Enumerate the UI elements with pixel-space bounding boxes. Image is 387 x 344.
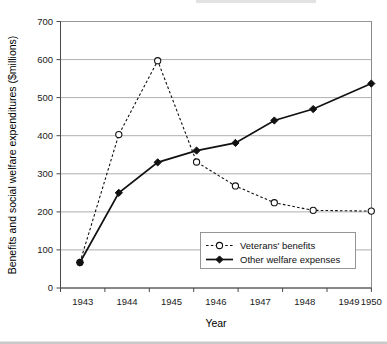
y-tick-label-400: 400 <box>37 130 53 141</box>
y-tick-label-200: 200 <box>37 206 53 217</box>
legend-marker-open-circle-icon <box>216 242 222 248</box>
y-tick-label-500: 500 <box>37 92 53 103</box>
data-point-veterans-1944 <box>116 131 122 137</box>
y-tick-label-0: 0 <box>48 282 53 293</box>
data-point-other-1947 <box>232 139 239 146</box>
x-tick-label-1946: 1946 <box>205 296 226 307</box>
legend-label-veterans-benefits: Veterans' benefits <box>240 240 315 251</box>
x-tick-label-1944: 1944 <box>117 296 138 307</box>
y-tick-labels: 700 600 500 400 300 200 100 0 <box>37 16 53 294</box>
scan-top-smudge <box>196 0 316 3</box>
x-tick-label-1950: 1950 <box>361 296 382 307</box>
data-point-veterans-1946 <box>193 159 199 165</box>
data-point-veterans-1948 <box>271 200 277 206</box>
data-point-other-1946 <box>193 147 200 154</box>
y-tick-label-300: 300 <box>37 168 53 179</box>
data-point-veterans-1950 <box>368 208 374 214</box>
data-point-other-1950 <box>368 80 375 87</box>
line-chart: 700 600 500 400 300 200 100 0 1943 1944 … <box>0 0 387 344</box>
data-point-other-1949 <box>310 105 317 112</box>
y-tick-label-600: 600 <box>37 54 53 65</box>
y-tick-marks <box>57 22 61 289</box>
x-tick-label-1947: 1947 <box>250 296 271 307</box>
y-tick-label-700: 700 <box>37 16 53 27</box>
legend-label-other-welfare-expenses: Other welfare expenses <box>240 254 341 265</box>
x-tick-label-1949: 1949 <box>339 296 360 307</box>
data-point-other-1948 <box>271 117 278 124</box>
x-tick-label-1948: 1948 <box>294 296 315 307</box>
x-tick-label-1943: 1943 <box>72 296 93 307</box>
y-axis-title: Benefits and social welfare expenditures… <box>6 36 18 275</box>
chart-container: 700 600 500 400 300 200 100 0 1943 1944 … <box>0 0 387 344</box>
data-point-veterans-1945 <box>155 58 161 64</box>
data-point-veterans-1949 <box>310 207 316 213</box>
chart-legend[interactable]: Veterans' benefits Other welfare expense… <box>201 233 356 269</box>
data-point-veterans-1947 <box>232 183 238 189</box>
x-tick-labels: 1943 1944 1945 1946 1947 1948 1949 1950 <box>72 296 382 307</box>
x-tick-marks <box>61 288 372 292</box>
gridlines <box>61 22 372 250</box>
x-tick-label-1945: 1945 <box>161 296 182 307</box>
x-axis-title: Year <box>205 317 227 329</box>
y-tick-label-100: 100 <box>37 244 53 255</box>
